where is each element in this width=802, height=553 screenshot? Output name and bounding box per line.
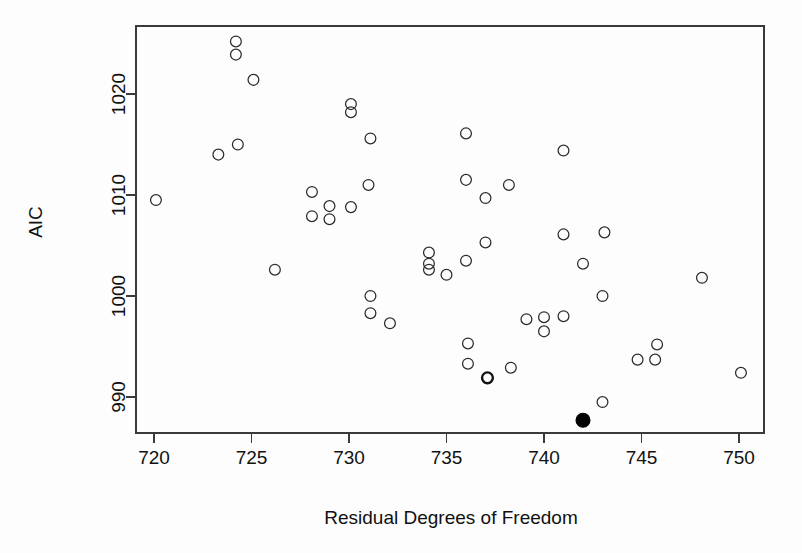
data-point [480, 193, 491, 204]
data-point [652, 339, 663, 350]
y-axis-tick-labels: 990100010101020 [108, 73, 129, 413]
data-point [482, 372, 493, 383]
data-point [697, 272, 708, 283]
data-point [505, 362, 516, 373]
x-axis-tick-labels: 720725730735740745750 [138, 447, 755, 468]
data-point [558, 311, 569, 322]
data-point [346, 202, 357, 213]
y-tick-label: 1020 [108, 73, 129, 115]
data-point [270, 264, 281, 275]
data-point [558, 229, 569, 240]
data-point [248, 74, 259, 85]
data-point [365, 133, 376, 144]
x-tick-label: 735 [431, 447, 463, 468]
x-axis-ticks [154, 433, 739, 443]
data-point [521, 314, 532, 325]
x-axis-title: Residual Degrees of Freedom [324, 507, 577, 528]
data-point [151, 195, 162, 206]
y-axis-ticks [126, 94, 136, 397]
x-tick-label: 745 [626, 447, 658, 468]
y-tick-label: 1010 [108, 174, 129, 216]
data-point [307, 187, 318, 198]
data-point [324, 214, 335, 225]
data-point [539, 326, 550, 337]
data-point [597, 291, 608, 302]
y-tick-label: 990 [108, 381, 129, 413]
data-point [231, 36, 242, 47]
plot-canvas: 720725730735740745750 990100010101020 Re… [0, 0, 802, 553]
data-point [650, 354, 661, 365]
data-point [385, 318, 396, 329]
plot-frame [136, 26, 764, 433]
data-point [463, 358, 474, 369]
data-point [307, 211, 318, 222]
data-point [463, 338, 474, 349]
data-point [346, 107, 357, 118]
y-axis-title: AIC [25, 206, 46, 238]
y-tick-label: 1000 [108, 275, 129, 317]
data-point [424, 247, 435, 258]
data-point [539, 312, 550, 323]
x-tick-label: 740 [528, 447, 560, 468]
data-point [441, 269, 452, 280]
data-point [632, 354, 643, 365]
data-point [324, 201, 335, 212]
data-point [424, 264, 435, 275]
data-point [461, 174, 472, 185]
data-point [365, 291, 376, 302]
data-point [461, 255, 472, 266]
data-point [480, 237, 491, 248]
x-tick-label: 720 [138, 447, 170, 468]
data-point [461, 128, 472, 139]
data-point [365, 308, 376, 319]
data-point [213, 149, 224, 160]
data-point [424, 258, 435, 269]
x-tick-label: 750 [723, 447, 755, 468]
data-point [597, 397, 608, 408]
x-tick-label: 725 [236, 447, 268, 468]
data-point [504, 180, 515, 191]
x-tick-label: 730 [333, 447, 365, 468]
data-point [578, 258, 589, 269]
data-point [576, 413, 590, 427]
data-point [736, 367, 747, 378]
data-point [231, 49, 242, 60]
data-point [558, 145, 569, 156]
data-point [363, 180, 374, 191]
data-point [599, 227, 610, 238]
data-point [232, 139, 243, 150]
scatter-plot-figure: 720725730735740745750 990100010101020 Re… [0, 0, 802, 553]
data-point-group [151, 36, 747, 427]
